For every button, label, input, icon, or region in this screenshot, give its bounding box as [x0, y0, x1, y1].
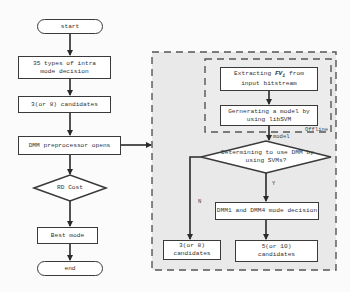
- dmm-mode-decision-box: DMM1 and DMM4 mode decision: [215, 202, 319, 220]
- intra-mode-label: 35 types of intra mode decision: [25, 60, 105, 76]
- extract-line2: input bitstream: [241, 80, 297, 88]
- generate-line2: using libSVM: [247, 116, 292, 124]
- generate-line1: Gernerating a model by: [228, 108, 310, 116]
- extract-suffix: from: [285, 70, 304, 77]
- best-mode-label: Best mode: [51, 232, 84, 240]
- generate-model-box: Gernerating a model by using libSVM: [220, 105, 318, 126]
- left-candidates-line2: candidates: [173, 250, 210, 258]
- dmm-preprocessor-box: DMM preprocessor opens: [18, 136, 121, 155]
- svm-decision-line1: Determining to use DMM by: [221, 149, 311, 157]
- left-candidates-line1: 3(or 8): [179, 242, 205, 250]
- end-label: end: [64, 265, 75, 273]
- candidates-label: 3(or 8) candidates: [31, 101, 98, 109]
- right-candidates-line2: candidates: [258, 251, 295, 259]
- right-candidates-box: 5(or 10) candidates: [235, 240, 318, 262]
- offline-label: Offline: [305, 126, 328, 133]
- extract-prefix: Extracting: [234, 70, 275, 77]
- right-candidates-line1: 5(or 10): [262, 243, 292, 251]
- yes-label: Y: [272, 180, 275, 187]
- rd-cost-label: RD Cost: [50, 184, 90, 192]
- dmm-mode-decision-label: DMM1 and DMM4 mode decision: [217, 207, 317, 215]
- flowchart-canvas: start 35 types of intra mode decision 3(…: [0, 0, 350, 292]
- no-label: N: [198, 198, 201, 205]
- start-label: start: [61, 23, 80, 31]
- svm-decision-line2: using SVMs?: [221, 157, 311, 165]
- dmm-preprocessor-label: DMM preprocessor opens: [29, 142, 111, 150]
- best-mode-box: Best mode: [37, 227, 98, 244]
- left-candidates-box: 3(or 8) candidates: [163, 240, 221, 260]
- intra-mode-box: 35 types of intra mode decision: [18, 56, 111, 79]
- extract-line1: Extracting FVi from: [234, 70, 304, 80]
- extract-features-box: Extracting FVi from input bitstream: [220, 67, 318, 91]
- candidates-box: 3(or 8) candidates: [18, 96, 111, 113]
- end-terminal: end: [37, 261, 103, 276]
- model-label: model: [273, 133, 290, 140]
- start-terminal: start: [37, 19, 103, 34]
